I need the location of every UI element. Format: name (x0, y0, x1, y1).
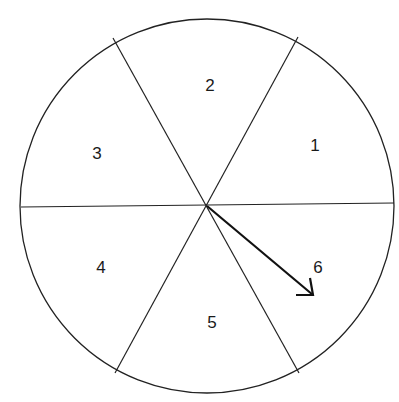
section-label-2: 2 (205, 76, 214, 95)
section-label-5: 5 (207, 313, 216, 332)
section-label-1: 1 (310, 136, 319, 155)
spinner-arrow-icon (207, 206, 313, 295)
section-label-3: 3 (92, 144, 101, 163)
section-label-4: 4 (96, 258, 105, 277)
spinner-diagram: 1 2 3 4 5 6 (0, 0, 399, 402)
section-label-6: 6 (313, 258, 322, 277)
